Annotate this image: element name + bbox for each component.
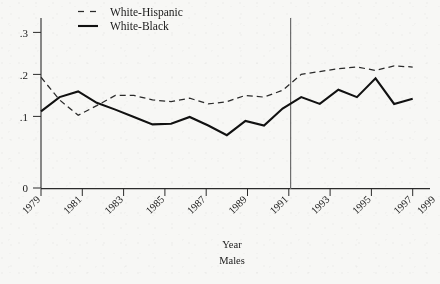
x-ticks bbox=[41, 189, 413, 196]
series-line-white-hispanic bbox=[41, 66, 413, 115]
x-tick-label-1985: 1985 bbox=[144, 194, 167, 217]
x-tick-label-1981: 1981 bbox=[61, 194, 84, 217]
x-tick-label-1995: 1995 bbox=[350, 194, 373, 217]
x-tick-label-1987: 1987 bbox=[185, 194, 208, 217]
y-axis: .3 .2 .1 0 bbox=[20, 18, 41, 194]
y-tick-label-3: .3 bbox=[20, 27, 29, 39]
x-tick-label-1983: 1983 bbox=[102, 194, 125, 217]
chart-svg: .3 .2 .1 0 1979 1981 198 bbox=[0, 0, 440, 284]
x-tick-label-1979: 1979 bbox=[20, 194, 43, 217]
x-tick-label-1989: 1989 bbox=[226, 194, 249, 217]
chart-figure: .3 .2 .1 0 1979 1981 198 bbox=[0, 0, 440, 284]
x-tick-label-1999: 1999 bbox=[415, 194, 438, 217]
x-tick-labels: 1979 1981 1983 1985 1987 1989 1991 1993 … bbox=[20, 194, 438, 217]
x-tick-label-1993: 1993 bbox=[309, 194, 332, 217]
x-axis-title: Year bbox=[222, 239, 242, 250]
series-line-white-black bbox=[41, 78, 413, 135]
legend-label-white-hispanic: White-Hispanic bbox=[110, 6, 183, 19]
x-tick-label-1991: 1991 bbox=[268, 194, 291, 217]
y-tick-label-1: .1 bbox=[20, 111, 28, 123]
x-axis-subtitle: Males bbox=[219, 255, 245, 266]
y-tick-label-0: 0 bbox=[23, 182, 29, 194]
legend-label-white-black: White-Black bbox=[110, 20, 169, 32]
x-axis: 1979 1981 1983 1985 1987 1989 1991 1993 … bbox=[20, 189, 438, 217]
y-tick-label-2: .2 bbox=[20, 69, 28, 81]
x-tick-label-1997: 1997 bbox=[391, 194, 414, 217]
chart-legend: White-Hispanic White-Black bbox=[78, 6, 183, 33]
